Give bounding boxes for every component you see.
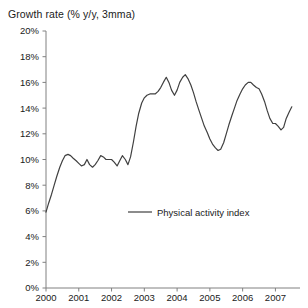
- chart-container: Growth rate (% y/y, 3mma) 0%2%4%6%8%10%1…: [0, 0, 308, 308]
- y-axis-tick-label: 4%: [25, 231, 39, 242]
- y-axis-tick-label: 8%: [25, 180, 39, 191]
- x-axis-tick-label: 2004: [167, 292, 188, 303]
- y-axis-tick-marks: [43, 31, 47, 288]
- x-axis-tick-label: 2002: [101, 292, 122, 303]
- data-series-line: [46, 75, 292, 213]
- x-axis-tick-label: 2006: [232, 292, 253, 303]
- x-axis-tick-label: 2003: [134, 292, 155, 303]
- x-axis-tick-label: 2001: [68, 292, 89, 303]
- y-axis-tick-label: 2%: [25, 257, 39, 268]
- x-axis-tick-label: 2005: [199, 292, 220, 303]
- x-axis-tick-label: 2000: [35, 292, 56, 303]
- y-axis-tick-label: 20%: [20, 25, 40, 36]
- line-chart-plot: 0%2%4%6%8%10%12%14%16%18%20% 20002001200…: [0, 0, 308, 308]
- legend-label: Physical activity index: [157, 207, 250, 218]
- y-axis-tick-label: 10%: [20, 154, 40, 165]
- y-axis-tick-label: 12%: [20, 128, 40, 139]
- x-axis-tick-marks: [46, 288, 275, 292]
- x-axis-tick-label: 2007: [265, 292, 286, 303]
- y-axis-tick-label: 18%: [20, 51, 40, 62]
- y-axis-tick-label: 14%: [20, 103, 40, 114]
- y-axis-tick-label: 16%: [20, 77, 40, 88]
- x-axis-tick-labels: 20002001200220032004200520062007: [35, 292, 286, 303]
- y-axis-tick-label: 6%: [25, 205, 39, 216]
- y-axis-tick-labels: 0%2%4%6%8%10%12%14%16%18%20%: [20, 25, 40, 293]
